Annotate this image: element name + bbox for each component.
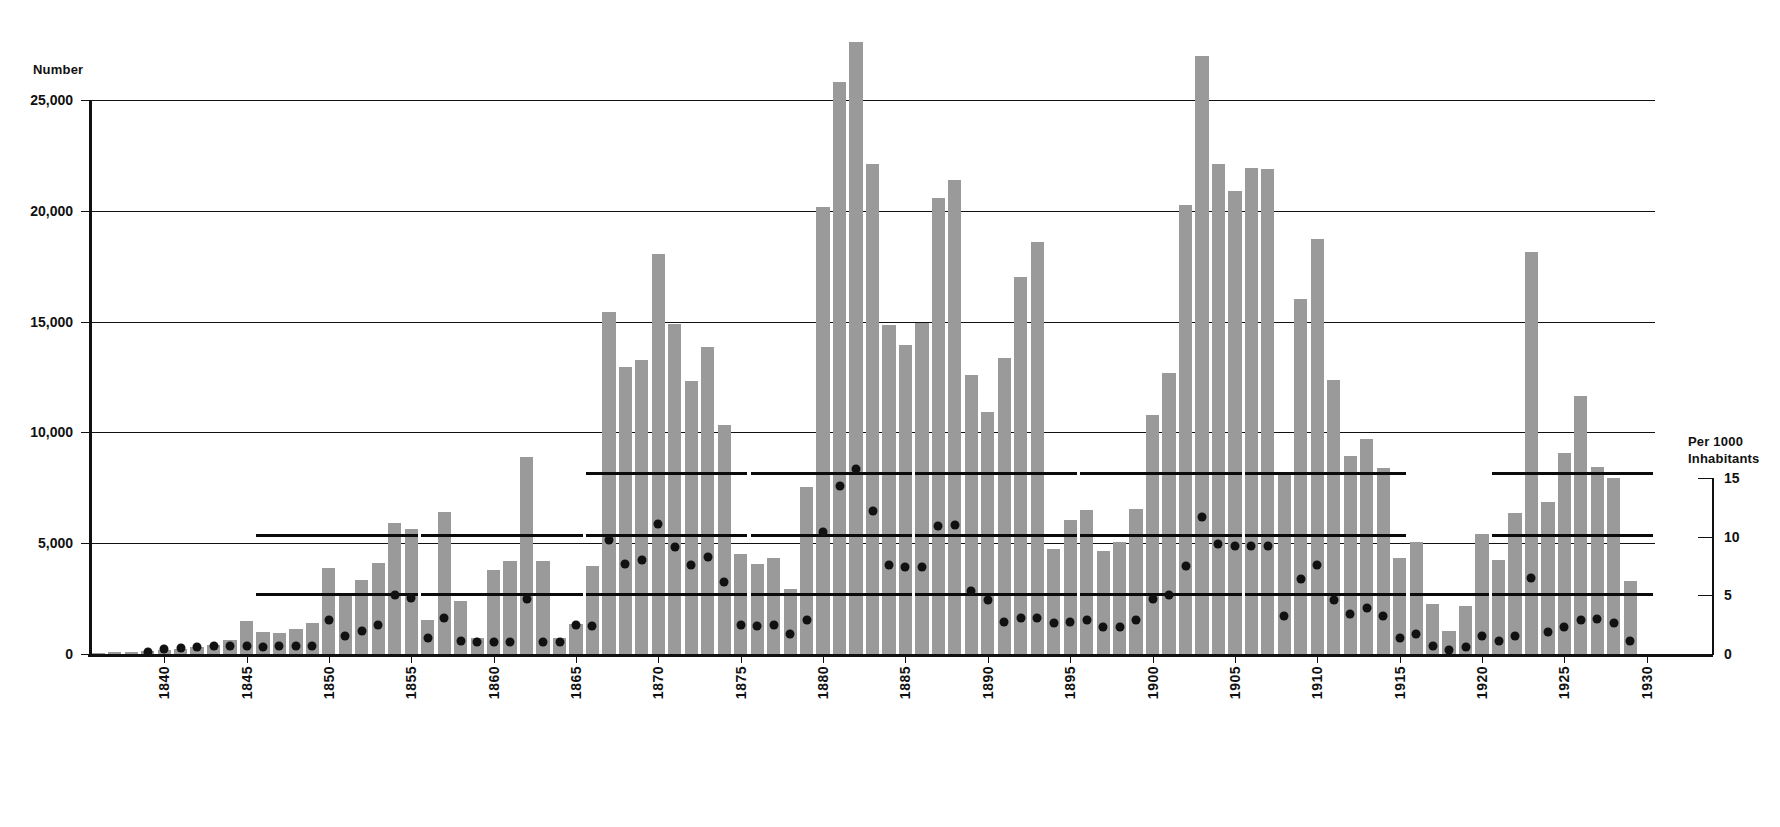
- bar-1898[interactable]: [1113, 542, 1126, 654]
- rate-dot-1877[interactable]: [769, 620, 778, 629]
- rate-dot-1922[interactable]: [1510, 632, 1519, 641]
- rate-dot-1860[interactable]: [489, 638, 498, 647]
- bar-1908[interactable]: [1278, 472, 1291, 654]
- rate-dot-1870[interactable]: [654, 519, 663, 528]
- bar-1890[interactable]: [981, 412, 994, 654]
- rate-dot-1925[interactable]: [1560, 623, 1569, 632]
- rate-dot-1852[interactable]: [357, 626, 366, 635]
- rate-dot-1898[interactable]: [1115, 623, 1124, 632]
- bar-1872[interactable]: [685, 381, 698, 654]
- bar-1878[interactable]: [784, 589, 797, 654]
- bar-1880[interactable]: [816, 207, 829, 654]
- rate-dot-1901[interactable]: [1165, 591, 1174, 600]
- bar-1892[interactable]: [1014, 277, 1027, 654]
- rate-dot-1921[interactable]: [1494, 637, 1503, 646]
- rate-dot-1894[interactable]: [1049, 619, 1058, 628]
- bar-1876[interactable]: [751, 564, 764, 654]
- bar-1879[interactable]: [800, 487, 813, 654]
- bar-1891[interactable]: [998, 358, 1011, 654]
- rate-dot-1924[interactable]: [1543, 627, 1552, 636]
- rate-dot-1858[interactable]: [456, 637, 465, 646]
- rate-dot-1902[interactable]: [1181, 562, 1190, 571]
- rate-dot-1853[interactable]: [374, 620, 383, 629]
- bar-1853[interactable]: [372, 563, 385, 654]
- bar-1875[interactable]: [734, 554, 747, 654]
- bar-1855[interactable]: [405, 529, 418, 654]
- bar-1851[interactable]: [339, 596, 352, 654]
- rate-dot-1890[interactable]: [983, 596, 992, 605]
- rate-dot-1885[interactable]: [901, 563, 910, 572]
- bar-1852[interactable]: [355, 580, 368, 654]
- rate-dot-1883[interactable]: [868, 506, 877, 515]
- rate-dot-1919[interactable]: [1461, 642, 1470, 651]
- rate-dot-1900[interactable]: [1148, 594, 1157, 603]
- bar-1895[interactable]: [1064, 520, 1077, 654]
- rate-dot-1903[interactable]: [1197, 512, 1206, 521]
- rate-dot-1926[interactable]: [1576, 615, 1585, 624]
- bar-1874[interactable]: [718, 425, 731, 654]
- bar-1868[interactable]: [619, 367, 632, 654]
- bar-1899[interactable]: [1129, 509, 1142, 654]
- bar-1911[interactable]: [1327, 380, 1340, 654]
- bar-1873[interactable]: [701, 347, 714, 654]
- bar-1884[interactable]: [882, 325, 895, 654]
- rate-dot-1846[interactable]: [258, 642, 267, 651]
- bar-1909[interactable]: [1294, 299, 1307, 654]
- bar-1850[interactable]: [322, 568, 335, 654]
- bar-1904[interactable]: [1212, 164, 1225, 654]
- rate-dot-1917[interactable]: [1428, 641, 1437, 650]
- rate-dot-1842[interactable]: [193, 642, 202, 651]
- bar-1897[interactable]: [1097, 551, 1110, 654]
- rate-dot-1859[interactable]: [473, 638, 482, 647]
- bar-1883[interactable]: [866, 164, 879, 654]
- rate-dot-1843[interactable]: [209, 641, 218, 650]
- rate-dot-1882[interactable]: [852, 464, 861, 473]
- bar-1913[interactable]: [1360, 439, 1373, 654]
- bar-1914[interactable]: [1377, 468, 1390, 654]
- rate-dot-1848[interactable]: [291, 641, 300, 650]
- rate-dot-1927[interactable]: [1593, 614, 1602, 623]
- bar-1854[interactable]: [388, 523, 401, 654]
- bar-1869[interactable]: [635, 360, 648, 654]
- rate-dot-1864[interactable]: [555, 638, 564, 647]
- rate-dot-1896[interactable]: [1082, 615, 1091, 624]
- rate-dot-1908[interactable]: [1280, 612, 1289, 621]
- bar-1887[interactable]: [932, 198, 945, 654]
- rate-dot-1923[interactable]: [1527, 573, 1536, 582]
- rate-dot-1928[interactable]: [1609, 619, 1618, 628]
- rate-dot-1863[interactable]: [539, 638, 548, 647]
- rate-dot-1851[interactable]: [341, 632, 350, 641]
- rate-dot-1845[interactable]: [242, 641, 251, 650]
- rate-dot-1906[interactable]: [1247, 542, 1256, 551]
- bar-1896[interactable]: [1080, 510, 1093, 654]
- bar-1889[interactable]: [965, 375, 978, 654]
- bar-1906[interactable]: [1245, 168, 1258, 654]
- rate-dot-1905[interactable]: [1230, 542, 1239, 551]
- bar-1881[interactable]: [833, 82, 846, 654]
- rate-dot-1929[interactable]: [1626, 637, 1635, 646]
- rate-dot-1909[interactable]: [1296, 574, 1305, 583]
- rate-dot-1879[interactable]: [802, 615, 811, 624]
- rate-dot-1875[interactable]: [736, 620, 745, 629]
- bar-1907[interactable]: [1261, 169, 1274, 654]
- rate-dot-1855[interactable]: [407, 593, 416, 602]
- bar-1886[interactable]: [915, 323, 928, 654]
- rate-dot-1907[interactable]: [1263, 542, 1272, 551]
- rate-dot-1878[interactable]: [786, 630, 795, 639]
- rate-dot-1849[interactable]: [308, 641, 317, 650]
- rate-dot-1876[interactable]: [753, 621, 762, 630]
- bar-1903[interactable]: [1195, 56, 1208, 654]
- rate-dot-1844[interactable]: [226, 641, 235, 650]
- rate-dot-1865[interactable]: [571, 620, 580, 629]
- bar-1901[interactable]: [1162, 373, 1175, 654]
- rate-dot-1862[interactable]: [522, 594, 531, 603]
- rate-dot-1866[interactable]: [588, 621, 597, 630]
- rate-dot-1874[interactable]: [720, 578, 729, 587]
- rate-dot-1893[interactable]: [1033, 613, 1042, 622]
- bar-1894[interactable]: [1047, 549, 1060, 654]
- rate-dot-1887[interactable]: [934, 522, 943, 531]
- rate-dot-1899[interactable]: [1132, 615, 1141, 624]
- rate-dot-1888[interactable]: [950, 520, 959, 529]
- rate-dot-1920[interactable]: [1478, 632, 1487, 641]
- bar-1858[interactable]: [454, 601, 467, 654]
